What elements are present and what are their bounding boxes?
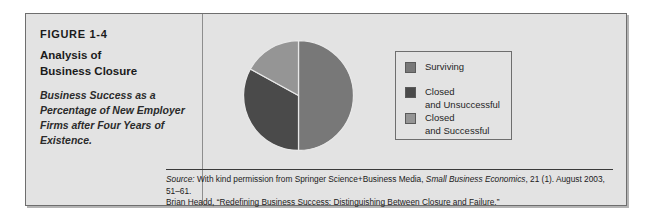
source-line2: Brian Headd, “Redefining Business Succes…: [166, 197, 499, 207]
legend-item-2[interactable]: Closed and Unsuccessful: [405, 86, 500, 111]
figure-subtitle: Business Success as a Percentage of New …: [40, 88, 190, 148]
legend-swatch-icon: [405, 62, 416, 73]
figure-number: FIGURE 1-4: [40, 28, 190, 40]
chart-legend: SurvivingClosed and UnsuccessfulClosed a…: [395, 51, 512, 140]
legend-item-label: Closed and Unsuccessful: [425, 86, 500, 111]
pie-slice-1[interactable]: [299, 41, 354, 151]
legend-item-3[interactable]: Closed and Successful: [405, 112, 489, 137]
legend-item-label: Closed and Successful: [425, 112, 489, 137]
legend-item-label: Surviving: [425, 61, 464, 74]
figure-caption-block: FIGURE 1-4 Analysis of Business Closure …: [40, 28, 190, 148]
figure-panel: FIGURE 1-4 Analysis of Business Closure …: [25, 13, 627, 206]
source-line1-rest: With kind permission from Springer Scien…: [195, 174, 426, 184]
source-divider: [166, 169, 613, 170]
figure-title: Analysis of Business Closure: [40, 47, 190, 79]
source-label: Source:: [166, 174, 195, 184]
source-journal-name: Small Business Economics: [426, 174, 526, 184]
legend-swatch-icon: [405, 87, 416, 98]
pie-chart-area: [216, 28, 416, 168]
legend-swatch-icon: [405, 113, 416, 124]
source-citation: Source: With kind permission from Spring…: [166, 174, 616, 209]
pie-chart: [243, 40, 354, 151]
legend-item-1[interactable]: Surviving: [405, 61, 464, 74]
